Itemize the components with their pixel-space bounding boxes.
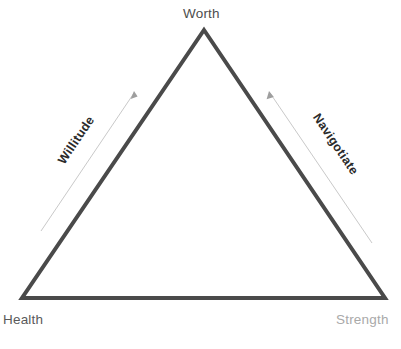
diagram-canvas: Worth Health Strength Willitude Navigoti… <box>0 0 401 349</box>
vertex-label-health: Health <box>3 313 43 327</box>
triangle-shape <box>22 30 385 298</box>
left-arrow-shaft <box>41 93 134 231</box>
vertex-label-worth: Worth <box>183 7 220 21</box>
right-arrow-head <box>267 91 274 99</box>
vertex-label-strength: Strength <box>336 313 389 327</box>
left-arrow-head <box>131 91 138 99</box>
left-arrow <box>41 91 138 231</box>
triangle-graphic <box>0 0 401 349</box>
